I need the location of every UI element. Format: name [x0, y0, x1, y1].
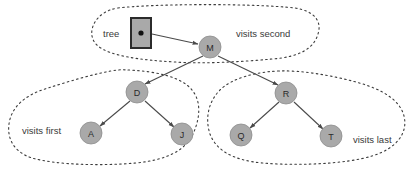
region-label-visits-second: visits second: [236, 28, 290, 39]
edge-tree-to-M: [152, 34, 198, 44]
node-label-T: T: [328, 132, 334, 142]
node-label-R: R: [283, 89, 290, 99]
pointer-dot: [138, 30, 143, 35]
tree-pointer-label: tree: [103, 28, 119, 39]
edge-R-to-Q: [250, 102, 279, 128]
region-label-visits-last: visits last: [353, 134, 392, 145]
node-M: M: [199, 36, 221, 58]
edge-R-to-T: [294, 102, 323, 129]
figure-canvas: tree M D R A J: [0, 0, 415, 175]
node-label-M: M: [206, 43, 214, 53]
node-J: J: [171, 123, 193, 145]
region-label-visits-first: visits first: [22, 125, 61, 136]
node-D: D: [126, 81, 148, 103]
node-label-J: J: [180, 130, 185, 140]
region-outlines: [9, 5, 405, 165]
region-outline-visits-first: [9, 70, 199, 165]
node-label-A: A: [88, 129, 94, 139]
edge-M-to-D: [145, 56, 203, 84]
node-A: A: [80, 122, 102, 144]
node-label-Q: Q: [237, 131, 244, 141]
node-Q: Q: [230, 124, 252, 146]
edge-D-to-A: [100, 101, 130, 126]
tree-nodes: M D R A J Q T: [80, 36, 342, 147]
tree-pointer-group: tree: [103, 18, 151, 48]
node-R: R: [275, 82, 297, 104]
node-T: T: [320, 125, 342, 147]
edge-M-to-R: [218, 56, 278, 85]
node-label-D: D: [134, 88, 141, 98]
diagram-svg: tree M D R A J: [0, 0, 415, 175]
edge-D-to-J: [145, 101, 174, 127]
region-outline-visits-last: [208, 71, 405, 164]
